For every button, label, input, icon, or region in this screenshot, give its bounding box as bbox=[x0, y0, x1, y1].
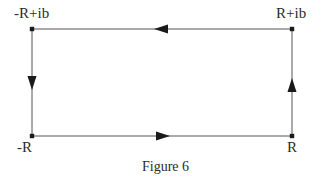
vertex-label-top-left: -R+ib bbox=[14, 6, 49, 21]
vertex-marker-bottom-left bbox=[30, 134, 34, 138]
vertex-marker-top-left bbox=[30, 27, 34, 31]
contour-diagram bbox=[0, 0, 331, 183]
vertex-label-bottom-right: R bbox=[287, 140, 297, 155]
right-edge-arrow-up-icon bbox=[288, 78, 297, 92]
figure-container: -R+ib R+ib -R R Figure 6 bbox=[0, 0, 331, 183]
left-edge-arrow-down-icon bbox=[28, 76, 37, 90]
vertex-marker-top-right bbox=[290, 27, 294, 31]
top-edge-arrow-left-icon bbox=[154, 25, 168, 34]
bottom-edge-arrow-right-icon bbox=[156, 132, 170, 141]
figure-caption: Figure 6 bbox=[0, 159, 331, 175]
vertex-marker-bottom-right bbox=[290, 134, 294, 138]
vertex-label-top-right: R+ib bbox=[276, 6, 306, 21]
vertex-label-bottom-left: -R bbox=[17, 140, 32, 155]
